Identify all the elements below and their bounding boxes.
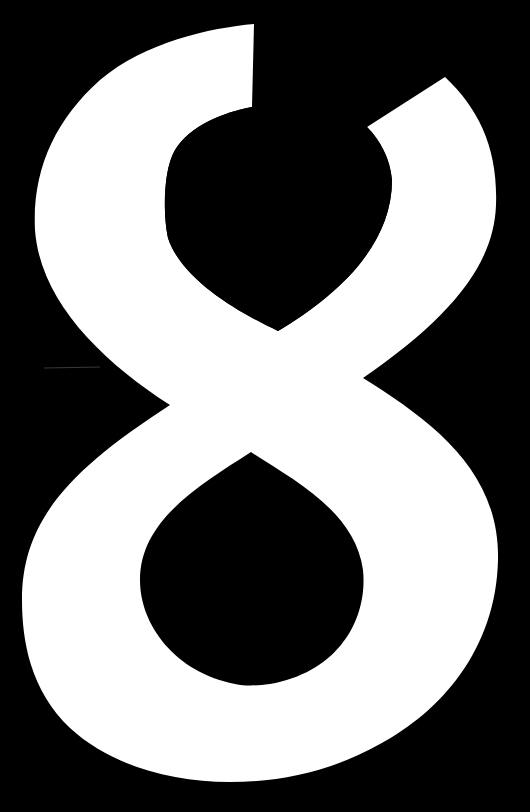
scan-artifact-line (44, 367, 100, 368)
canvas: 8 (0, 0, 530, 812)
numeral-eight-glyph (0, 0, 530, 812)
